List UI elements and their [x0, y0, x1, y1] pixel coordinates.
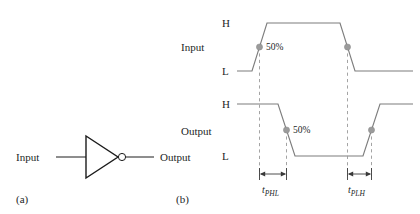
marker-dot-output-rising — [368, 127, 374, 133]
inverter-bubble-icon — [118, 153, 125, 160]
tphl-subscript: PHL — [264, 189, 279, 198]
tphl-label: tPHL — [262, 184, 279, 198]
marker-dot-output-falling — [283, 127, 289, 133]
tplh-label: tPLH — [348, 184, 366, 198]
delay-measure-tphl: tPHL — [260, 168, 287, 198]
output-waveform — [237, 104, 413, 156]
marker-dot-input-rising — [256, 44, 262, 50]
delay-measure-tplh: tPLH — [348, 168, 372, 198]
tphl-arrowhead-right-icon — [281, 172, 286, 177]
output-low-level-label: L — [222, 150, 229, 162]
output-high-level-label: H — [222, 98, 230, 110]
figure-svg: Input Output (a) H L Input H L Output 50… — [0, 0, 420, 214]
panel-b-caption: (b) — [176, 193, 189, 206]
tplh-arrowhead-right-icon — [366, 172, 371, 177]
tphl-arrowhead-left-icon — [260, 172, 265, 177]
inverter-input-label: Input — [16, 151, 39, 163]
panel-a-inverter-symbol: Input Output (a) — [16, 136, 191, 206]
input-50pct-label: 50% — [266, 42, 284, 52]
inverter-output-label: Output — [160, 151, 191, 163]
panel-a-caption: (a) — [16, 193, 29, 206]
tplh-subscript: PLH — [350, 189, 366, 198]
output-signal-label: Output — [181, 125, 212, 137]
output-50pct-label: 50% — [293, 125, 311, 135]
inverter-triangle-icon — [86, 136, 118, 178]
input-high-level-label: H — [222, 17, 230, 29]
input-low-level-label: L — [222, 65, 229, 77]
figure-container: Input Output (a) H L Input H L Output 50… — [0, 0, 420, 214]
input-waveform — [237, 23, 413, 71]
panel-b-timing-diagram: H L Input H L Output 50% 50% tPHL — [176, 17, 413, 206]
tplh-arrowhead-left-icon — [348, 172, 353, 177]
input-signal-label: Input — [181, 41, 204, 53]
marker-dot-input-falling — [344, 44, 350, 50]
